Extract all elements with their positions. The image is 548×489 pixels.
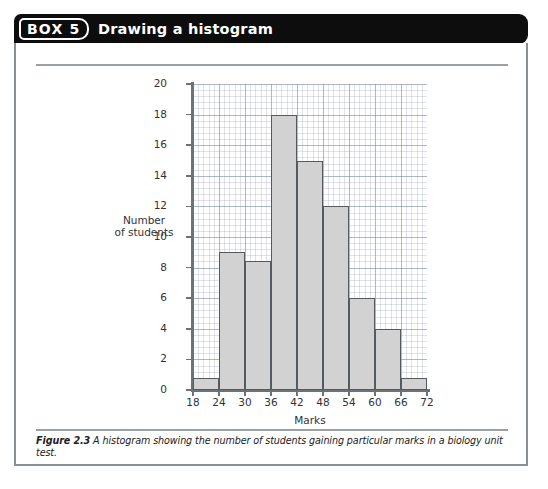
y-tick-mark <box>186 206 192 208</box>
histogram-bar <box>219 252 245 390</box>
y-tick-label: 18 <box>127 108 167 120</box>
figure-caption: Figure 2.3 A histogram showing the numbe… <box>36 435 510 459</box>
histogram-bar <box>297 161 323 391</box>
plot-area-wrapper: 02468101214161820 18243036424854606672 N… <box>171 78 439 428</box>
y-tick-label: 8 <box>127 261 167 273</box>
y-tick-label: 2 <box>127 352 167 364</box>
y-tick-mark <box>186 359 192 361</box>
y-tick-label: 14 <box>127 169 167 181</box>
histogram-bar <box>193 378 219 390</box>
histogram-bar <box>375 329 401 390</box>
y-tick-label: 20 <box>127 77 167 89</box>
y-axis-title: Number of students <box>113 214 175 238</box>
x-axis-title: Marks <box>193 414 427 426</box>
y-tick-label: 4 <box>127 322 167 334</box>
y-tick-mark <box>186 389 192 391</box>
y-tick-mark <box>186 114 192 116</box>
box-number-badge: BOX 5 <box>19 18 89 40</box>
histogram-bar <box>245 261 271 390</box>
y-axis-title-line1: Number <box>113 214 175 226</box>
figure-histogram: 02468101214161820 18243036424854606672 N… <box>16 69 526 425</box>
y-tick-label: 6 <box>127 291 167 303</box>
y-tick-label: 12 <box>127 199 167 211</box>
y-tick-mark <box>186 144 192 146</box>
y-tick-mark <box>186 83 192 85</box>
box-5-container: BOX 5 Drawing a histogram 02468101214161… <box>14 14 530 466</box>
box-body: 02468101214161820 18243036424854606672 N… <box>14 43 528 466</box>
y-tick-mark <box>186 175 192 177</box>
histogram-bar <box>401 378 427 390</box>
y-tick-mark <box>186 297 192 299</box>
y-tick-label: 0 <box>127 383 167 395</box>
y-axis-title-line2: of students <box>113 226 175 238</box>
x-tick-label: 72 <box>412 396 442 408</box>
divider-caption <box>36 429 508 431</box>
figure-caption-label: Figure 2.3 <box>36 435 90 446</box>
y-tick-mark <box>186 267 192 269</box>
box-title: Drawing a histogram <box>98 14 273 44</box>
y-tick-mark <box>186 328 192 330</box>
histogram-bar <box>271 115 297 390</box>
y-tick-label: 16 <box>127 138 167 150</box>
box-header-bar: BOX 5 Drawing a histogram <box>14 14 528 44</box>
divider-top <box>36 64 508 66</box>
y-tick-mark <box>186 236 192 238</box>
histogram-bar <box>323 206 349 390</box>
histogram-bar <box>349 298 375 390</box>
figure-caption-text: A histogram showing the number of studen… <box>36 435 503 458</box>
